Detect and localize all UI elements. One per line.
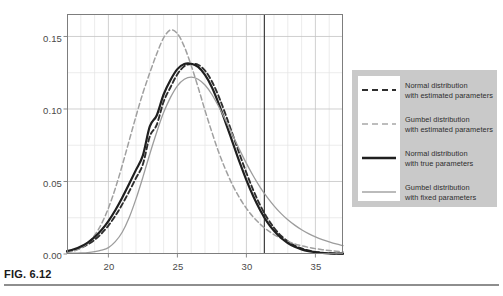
legend-swatch-solid-dark-icon	[358, 148, 400, 178]
legend-label-0-line2: with estimated parameters	[405, 91, 497, 101]
y-tick-label-1: 0.10	[30, 105, 62, 116]
legend-entry-0: Normal distribution with estimated param…	[352, 80, 497, 110]
figure-root: 0.15 0.10 0.05 0.00 20 25 30 35 Normal d…	[0, 0, 503, 296]
legend-entry-2: Normal distribution with true parameters	[352, 148, 497, 178]
legend-entry-1: Gumbel distribution with estimated param…	[352, 114, 497, 144]
legend-label-1-line1: Gumbel distribution	[405, 115, 497, 125]
legend-label-2-line1: Normal distribution	[405, 149, 497, 159]
caption-rule	[4, 284, 499, 286]
legend-swatch-dashed-dark-icon	[358, 80, 400, 110]
legend-entry-3: Gumbel distribution with fixed parameter…	[352, 182, 497, 212]
legend-label-3: Gumbel distribution with fixed parameter…	[405, 183, 497, 202]
legend-label-2: Normal distribution with true parameters	[405, 149, 497, 168]
legend-label-0: Normal distribution with estimated param…	[405, 81, 497, 100]
legend-label-2-line2: with true parameters	[405, 159, 497, 169]
y-tick-label-0: 0.15	[30, 33, 62, 44]
chart-canvas	[62, 14, 348, 259]
legend-swatch-solid-gray-icon	[358, 182, 400, 212]
legend-label-3-line2: with fixed parameters	[405, 193, 497, 203]
legend-swatch-dashed-gray-icon	[358, 114, 400, 144]
y-tick-label-3: 0.00	[30, 250, 62, 261]
legend-label-1: Gumbel distribution with estimated param…	[405, 115, 497, 134]
legend-label-1-line2: with estimated parameters	[405, 125, 497, 135]
figure-caption-label: FIG. 6.12	[4, 268, 499, 281]
legend-label-3-line1: Gumbel distribution	[405, 183, 497, 193]
figure-caption: FIG. 6.12	[4, 268, 499, 281]
tick-marks	[64, 36, 316, 257]
plot-area	[62, 14, 348, 259]
legend-label-0-line1: Normal distribution	[405, 81, 497, 91]
chart-legend: Normal distribution with estimated param…	[352, 70, 497, 207]
y-tick-label-2: 0.05	[30, 178, 62, 189]
